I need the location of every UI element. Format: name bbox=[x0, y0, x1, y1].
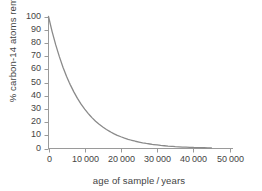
y-axis-label: % carbon-14 atoms remaining bbox=[4, 0, 20, 111]
x-axis-label-text: age of sample / years bbox=[93, 175, 185, 186]
y-tick-label: 20 bbox=[19, 116, 41, 126]
x-tick-label: 20 000 bbox=[102, 154, 142, 164]
y-tick-label: 30 bbox=[19, 103, 41, 113]
axes bbox=[48, 16, 233, 149]
y-tick-label: 40 bbox=[19, 90, 41, 100]
y-tick-label: 60 bbox=[19, 63, 41, 73]
y-tick-label: 90 bbox=[19, 24, 41, 34]
y-axis-label-text: % carbon-14 atoms remaining bbox=[7, 0, 18, 102]
y-tick-marks bbox=[45, 18, 49, 150]
x-tick-label: 50 000 bbox=[211, 154, 251, 164]
x-tick-label: 0 bbox=[30, 154, 70, 164]
x-tick-label: 40 000 bbox=[174, 154, 214, 164]
decay-curve-line bbox=[49, 17, 212, 148]
y-tick-label: 0 bbox=[19, 143, 41, 153]
y-tick-label: 80 bbox=[19, 37, 41, 47]
y-tick-label: 50 bbox=[19, 77, 41, 87]
x-axis-label: age of sample / years bbox=[48, 170, 230, 188]
carbon-14-decay-chart: % carbon-14 atoms remaining age of sampl… bbox=[0, 0, 262, 191]
y-tick-label: 10 bbox=[19, 129, 41, 139]
y-tick-label: 100 bbox=[19, 11, 41, 21]
y-tick-label: 70 bbox=[19, 50, 41, 60]
x-tick-label: 30 000 bbox=[138, 154, 178, 164]
x-tick-marks bbox=[50, 149, 231, 153]
x-tick-label: 10 000 bbox=[66, 154, 106, 164]
